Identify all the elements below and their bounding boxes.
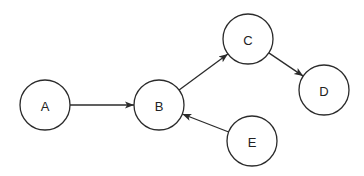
node-label: C <box>243 33 252 48</box>
node-label: B <box>155 99 164 114</box>
edges-layer <box>70 53 303 132</box>
nodes-layer: ABCDE <box>20 14 349 166</box>
edge-e-to-b <box>182 114 228 132</box>
graph-canvas: ABCDE <box>0 0 364 176</box>
edge-b-to-c <box>179 54 228 90</box>
node-label: A <box>41 99 50 114</box>
node-label: E <box>248 135 257 150</box>
node-e: E <box>227 116 277 166</box>
node-a: A <box>20 80 70 130</box>
node-c: C <box>223 14 273 64</box>
node-b: B <box>134 80 184 130</box>
edge-c-to-d <box>269 53 303 76</box>
node-label: D <box>319 84 328 99</box>
node-d: D <box>299 65 349 115</box>
